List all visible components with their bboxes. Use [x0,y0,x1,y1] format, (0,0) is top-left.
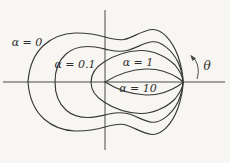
label-alpha-10: α = 10 [119,82,157,95]
label-alpha-0-1: α = 0.1 [54,58,95,71]
label-alpha-1: α = 1 [123,56,154,69]
figure-canvas: α = 0 α = 0.1 α = 1 α = 10 θ [0,0,230,163]
polar-pattern-figure: α = 0 α = 0.1 α = 1 α = 10 θ [0,0,230,163]
theta-angle-arrow [190,55,198,79]
theta-label: θ [203,59,211,73]
label-alpha-0: α = 0 [12,36,43,49]
